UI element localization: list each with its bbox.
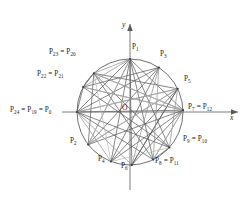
chord-p0-p8 [77, 112, 153, 160]
label-p8-sub: 8 [159, 160, 162, 166]
label-p23-p20: P23 = P20 [49, 49, 76, 56]
label-p7-eq: = [195, 103, 203, 111]
point-p5 [177, 88, 179, 90]
label-p6: P6 [121, 163, 128, 170]
label-p6-sub: 6 [125, 165, 128, 171]
y-axis-arrow-icon [127, 24, 133, 31]
label-p8-p11: P8 = P11 [155, 158, 179, 165]
chord-p21-p9 [83, 87, 169, 147]
label-p23-p20-sub1: 23 [53, 51, 58, 57]
label-p0-sub: 0 [49, 109, 52, 115]
point-p0 [76, 111, 78, 113]
label-p10-sub: 10 [202, 138, 207, 144]
point-p20 [93, 72, 95, 74]
label-p9-sub: 9 [187, 138, 190, 144]
label-p24-sub: 24 [14, 109, 19, 115]
point-p8 [152, 159, 154, 161]
chord-faint-p8-p7 [153, 110, 183, 159]
label-p19-sub: 19 [31, 109, 36, 115]
label-p24-eq2: = [37, 106, 45, 114]
label-p2-sub: 2 [74, 140, 77, 146]
label-p3: P3 [160, 51, 167, 58]
point-p6 [131, 164, 133, 166]
label-p5-sub: 5 [188, 78, 191, 84]
label-p12-sub: 12 [207, 106, 212, 112]
chord-faint-p21-p7 [83, 87, 183, 110]
label-p22-p21-sub2: 21 [58, 73, 63, 79]
label-p11-sub: 11 [174, 160, 179, 166]
label-p1: P1 [132, 44, 139, 51]
label-p9-p10: P9 = P10 [183, 136, 207, 143]
label-p4: P4 [98, 156, 105, 163]
label-p5: P5 [184, 76, 191, 83]
label-p3-sub: 3 [164, 53, 167, 59]
figure-container: P23 = P20 P22 = P21 P24 = P19 = P0 P1 P3… [0, 0, 246, 197]
label-p2: P2 [70, 138, 77, 145]
label-p4-sub: 4 [102, 158, 105, 164]
label-p8-eq: = [162, 157, 170, 165]
x-axis-label: x [230, 114, 233, 122]
label-p1-sub: 1 [136, 46, 139, 52]
label-p7-sub: 7 [192, 106, 195, 112]
chord-p4-p7 [111, 110, 183, 161]
point-p4 [110, 160, 112, 162]
y-axis-label: y [122, 21, 125, 29]
label-p22-p21: P22 = P21 [37, 71, 64, 78]
origin-label: O [122, 104, 128, 112]
chord-p20-p8 [94, 73, 153, 159]
label-p7-p12: P7 = P12 [188, 104, 212, 111]
label-p23-p20-sub2: 20 [70, 51, 75, 57]
label-p22-p21-sub1: 22 [41, 73, 46, 79]
point-p1 [129, 58, 131, 60]
chord-p5-p9 [169, 89, 177, 148]
chord-p20-p1 [94, 59, 130, 73]
point-p2 [87, 144, 89, 146]
point-p21 [82, 86, 84, 88]
label-p24-p19-p0: P24 = P19 = P0 [10, 107, 51, 114]
point-p3 [158, 66, 160, 68]
chord-p21-p0 [77, 87, 83, 112]
point-p7 [182, 109, 184, 111]
label-p9-eq: = [190, 135, 198, 143]
point-p9 [168, 146, 170, 148]
chord-p0-p3 [77, 68, 159, 113]
